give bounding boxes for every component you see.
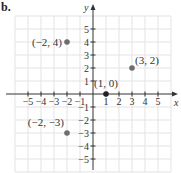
y-axis-label: y — [83, 2, 89, 13]
point-label: (−2, 4) — [32, 36, 62, 49]
y-tick-label: −1 — [78, 102, 89, 113]
y-axis-arrow-icon — [91, 4, 96, 10]
data-point — [103, 91, 109, 97]
x-tick-label: 1 — [104, 96, 109, 107]
y-tick-label: 5 — [84, 24, 89, 35]
data-point — [64, 39, 70, 45]
data-point — [129, 65, 135, 71]
data-point — [64, 130, 70, 136]
x-axis-arrow-icon — [172, 92, 178, 97]
y-tick-label: −2 — [78, 115, 89, 126]
x-axis-label: x — [173, 97, 179, 108]
y-tick-label: −4 — [78, 141, 89, 152]
coordinate-plane: b. x y −5−4−3−2−11234554321−1−2−3−4−5 (−… — [0, 0, 181, 173]
y-tick-label: −3 — [78, 128, 89, 139]
axes: x y — [6, 2, 179, 170]
point-label: (−2, −3) — [28, 116, 65, 129]
x-tick-label: 2 — [117, 96, 122, 107]
y-tick-label: 1 — [84, 76, 89, 87]
y-tick-label: 3 — [84, 50, 89, 61]
x-tick-label: −5 — [23, 96, 34, 107]
x-tick-label: −2 — [62, 96, 73, 107]
x-tick-label: −3 — [49, 96, 60, 107]
x-tick-label: 5 — [156, 96, 161, 107]
x-tick-label: 3 — [130, 96, 135, 107]
part-label: b. — [1, 0, 11, 14]
y-tick-label: 4 — [84, 37, 89, 48]
y-tick-label: −5 — [78, 154, 89, 165]
x-tick-label: −4 — [36, 96, 47, 107]
x-tick-label: 4 — [143, 96, 148, 107]
y-tick-label: 2 — [84, 63, 89, 74]
point-label: (3, 2) — [135, 54, 159, 67]
point-label: (1, 0) — [94, 77, 118, 90]
